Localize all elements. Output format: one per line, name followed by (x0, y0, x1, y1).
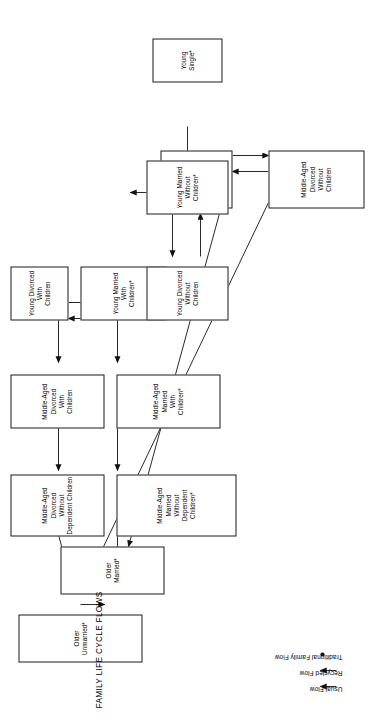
legend-item-usual-flow: Usual Flow (309, 685, 342, 692)
node-label: Middle-Aged DivorcedWithoutChildren (299, 152, 332, 206)
node-mid-divorced-no-dependent[interactable]: Middle-Aged DivorcedWithoutDependent Chi… (10, 474, 104, 536)
diagram-stage: OlderUnmarried* OlderMarried* Middle-Age… (0, 0, 373, 722)
legend-item-recycled-flow: Recycled Flow (299, 669, 342, 676)
figure-canvas: OlderUnmarried* OlderMarried* Middle-Age… (0, 0, 373, 722)
node-label: OlderUnmarried* (72, 622, 89, 655)
node-mid-married-no-dependent[interactable]: Middle-Aged MarriedWithoutDependentChild… (116, 474, 236, 536)
node-label: YoungSingle* (179, 50, 196, 71)
node-label: Middle-Aged DivorcedWithChildren (40, 376, 73, 426)
node-label: Middle-Aged DivorcedWithoutDependent Chi… (40, 476, 73, 534)
node-older-married[interactable]: OlderMarried* (60, 546, 164, 594)
node-label: Middle-Aged MarriedWithChildren* (151, 376, 184, 426)
node-label: Young DivorcedWithChildren (27, 270, 52, 316)
node-young-single[interactable]: YoungSingle* (152, 38, 222, 82)
node-label: Young MarriedWithoutChildren* (175, 166, 200, 208)
figure-title: FAMILY LIFE CYCLE FLOWS (94, 591, 103, 708)
node-label: Middle-Aged MarriedWithoutDependentChild… (155, 476, 196, 534)
node-older-unmarried[interactable]: OlderUnmarried* (18, 614, 142, 662)
node-young-divorced-with[interactable]: Young DivorcedWithChildren (10, 266, 68, 320)
node-label: OlderMarried* (104, 558, 121, 583)
legend-item-traditional-family-flow: Traditional Family Flow (274, 653, 342, 660)
node-mid-divorced-without[interactable]: Middle-Aged DivorcedWithoutChildren (268, 150, 364, 208)
node-label: Young DivorcedWithoutChildren (175, 270, 200, 316)
node-young-divorced-without[interactable]: Young DivorcedWithoutChildren (146, 266, 228, 320)
node-mid-divorced-with[interactable]: Middle-Aged DivorcedWithChildren (10, 374, 104, 428)
node-mid-married-with[interactable]: Middle-Aged MarriedWithChildren* (116, 374, 220, 428)
node-young-married-without[interactable]: Young MarriedWithoutChildren* (146, 160, 228, 214)
node-label: Young MarriedWithChildren* (111, 272, 136, 314)
